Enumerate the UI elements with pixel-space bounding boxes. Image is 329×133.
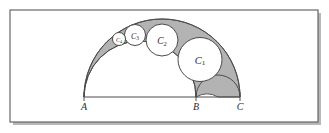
label-subscript-C3: 3 (136, 35, 139, 41)
point-label-A: A (80, 101, 88, 112)
label-subscript-C1: 1 (202, 59, 206, 67)
point-label-C: C (237, 101, 244, 112)
label-subscript-C2: 2 (164, 39, 167, 46)
point-label-B: B (193, 101, 199, 112)
arbelos-diagram: C1 C2 C3 C4 A B C (0, 0, 329, 133)
figure-container: C1 C2 C3 C4 A B C (0, 0, 329, 133)
